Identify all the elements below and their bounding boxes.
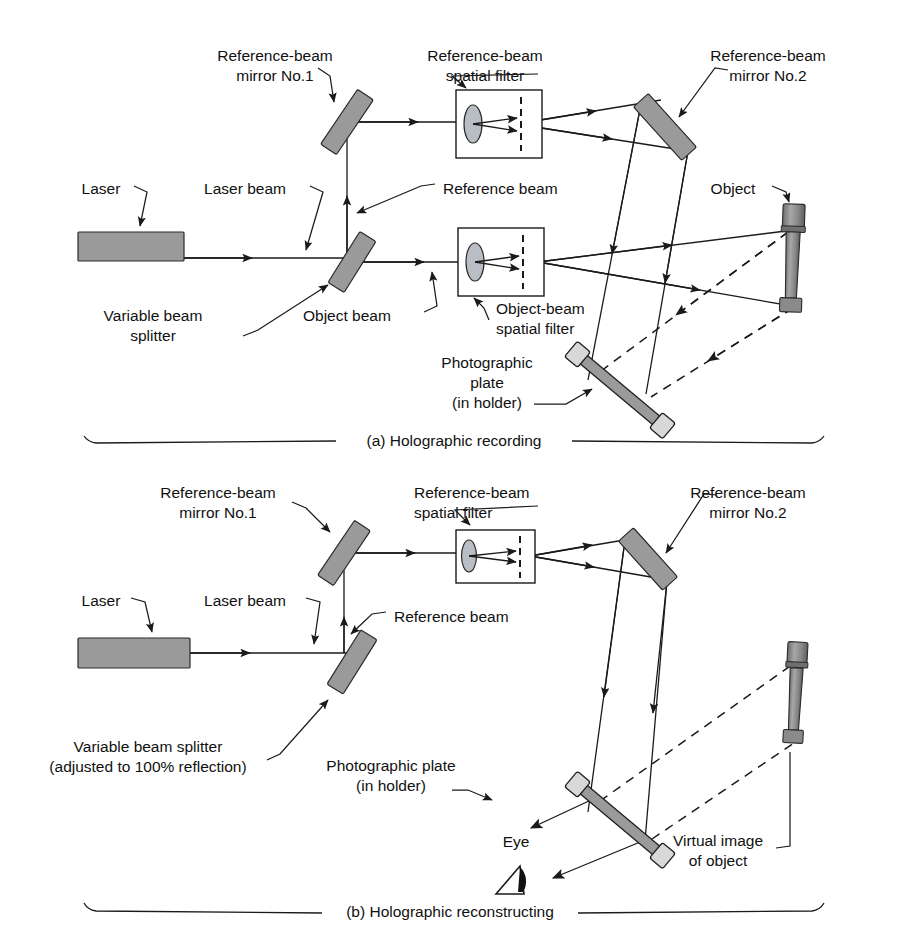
reference-beam-spatial-filter-b <box>456 530 535 583</box>
panel-b-beam-paths <box>190 538 797 878</box>
reference-cone-lower-arrow-b <box>530 556 594 567</box>
label-laser-a: Laser <box>82 180 121 197</box>
label-reference-mirror-1-b-line2: mirror No.1 <box>179 504 257 521</box>
panel-a-holographic-recording: Reference-beam mirror No.1 Reference-bea… <box>78 47 826 449</box>
photographic-plate-b <box>565 771 676 869</box>
reference-to-plate-left-arrow-a <box>612 104 641 254</box>
label-object-filter-a-line1: Object-beam <box>496 300 585 317</box>
reference-to-plate-right-b <box>645 581 667 841</box>
leader-laser-a <box>134 186 147 226</box>
panel-b-holographic-reconstructing: Reference-beam mirror No.1 Reference-bea… <box>49 484 824 920</box>
reference-to-plate-left-arrow-b <box>604 540 625 697</box>
reference-beam-mirror-2-a <box>633 94 696 161</box>
caption-b-right-rule <box>578 903 824 913</box>
leader-reference-beam-b <box>351 612 386 634</box>
caption-b: (b) Holographic reconstructing <box>346 903 554 920</box>
object-cone-upper-arrow-a <box>538 245 672 262</box>
label-reference-mirror-1-a-line2: mirror No.1 <box>236 67 314 84</box>
label-reference-mirror-1-b-line1: Reference-beam <box>160 484 275 501</box>
label-reference-mirror-2-a-line1: Reference-beam <box>710 47 825 64</box>
leader-virtual-image-b <box>776 752 790 848</box>
label-reference-beam-b: Reference beam <box>394 608 509 625</box>
label-reference-filter-a-line1: Reference-beam <box>427 47 542 64</box>
laser-body-b <box>78 638 190 668</box>
leader-laser-beam-b <box>306 598 320 644</box>
leader-object-beam-a <box>424 272 437 312</box>
eye-ray-lower-b <box>553 840 645 878</box>
eye-ray-upper-b <box>531 800 591 828</box>
label-object-filter-a-line2: spatial filter <box>496 320 574 337</box>
label-object-beam-a: Object beam <box>303 307 391 324</box>
reference-cone-upper-arrow-b <box>530 545 592 556</box>
leader-laser-b <box>131 598 152 632</box>
label-variable-beam-splitter-b-line2: (adjusted to 100% reflection) <box>49 758 246 775</box>
leader-object-a <box>772 186 789 202</box>
label-variable-beam-splitter-a-line1: Variable beam <box>104 307 203 324</box>
laser-body-a <box>78 232 184 261</box>
leader-photographic-plate-a <box>534 389 592 404</box>
leader-reference-mirror-2-a <box>679 68 728 117</box>
object-beam-spatial-filter-a <box>458 228 544 296</box>
leader-reference-mirror-1-a <box>318 68 334 102</box>
label-photographic-plate-b-line1: Photographic plate <box>326 757 455 774</box>
diagram-canvas: Reference-beam mirror No.1 Reference-bea… <box>0 0 902 952</box>
leader-variable-beam-splitter-b <box>267 700 328 760</box>
label-reference-filter-b-line1: Reference-beam <box>414 484 529 501</box>
virtual-ray-upper-b <box>600 664 793 801</box>
reference-to-plate-right-arrow-b <box>653 581 667 713</box>
virtual-image-object-b <box>782 642 809 744</box>
label-laser-beam-a: Laser beam <box>204 180 286 197</box>
virtual-ray-lower-b <box>652 741 797 839</box>
caption-b-left-rule <box>84 903 322 913</box>
object-scatter-lower-arrow-a <box>708 308 793 361</box>
label-object-a: Object <box>711 180 756 197</box>
eye-symbol-b <box>496 866 526 894</box>
leader-object-filter-a <box>474 298 489 320</box>
holography-figure: Reference-beam mirror No.1 Reference-bea… <box>0 0 902 952</box>
leader-reference-mirror-2-b <box>666 494 717 553</box>
label-variable-beam-splitter-a-line2: splitter <box>130 327 176 344</box>
leader-laser-beam-a <box>306 186 323 250</box>
label-photographic-plate-a-line2: plate <box>470 374 504 391</box>
photographic-plate-a <box>565 341 676 439</box>
label-virtual-image-b-line2: of object <box>689 852 748 869</box>
leader-photographic-plate-b <box>452 790 492 800</box>
object-cone-lower-arrow-a <box>538 262 700 290</box>
label-reference-mirror-2-b-line2: mirror No.2 <box>709 504 787 521</box>
panel-b-caption-group: (b) Holographic reconstructing <box>84 903 824 920</box>
label-photographic-plate-b-line2: (in holder) <box>356 777 426 794</box>
label-reference-beam-a: Reference beam <box>443 180 558 197</box>
label-laser-b: Laser <box>82 592 121 609</box>
label-laser-beam-b: Laser beam <box>204 592 286 609</box>
caption-a: (a) Holographic recording <box>367 432 542 449</box>
reference-to-plate-right-arrow-a <box>665 151 688 283</box>
label-photographic-plate-a-line3: (in holder) <box>452 394 522 411</box>
reference-beam-mirror-2-b <box>618 528 677 590</box>
variable-beam-splitter-b <box>327 630 377 694</box>
label-reference-filter-b-line2: spatial filter <box>414 504 492 521</box>
panel-a-labels: Reference-beam mirror No.1 Reference-bea… <box>82 47 826 411</box>
leader-reference-beam-a <box>357 184 435 213</box>
leader-reference-mirror-1-b <box>292 502 330 532</box>
reference-beam-spatial-filter-a <box>456 90 542 158</box>
caption-a-left-rule <box>84 436 336 443</box>
label-reference-mirror-2-a-line2: mirror No.2 <box>729 67 807 84</box>
label-virtual-image-b-line1: Virtual image <box>673 832 763 849</box>
object-a <box>778 204 806 313</box>
caption-a-right-rule <box>572 436 824 443</box>
label-reference-mirror-2-b-line1: Reference-beam <box>690 484 805 501</box>
label-photographic-plate-a-line1: Photographic <box>441 354 533 371</box>
label-eye-b: Eye <box>503 833 530 850</box>
panel-a-caption-group: (a) Holographic recording <box>84 432 824 449</box>
label-variable-beam-splitter-b-line1: Variable beam splitter <box>74 738 223 755</box>
label-reference-mirror-1-a-line1: Reference-beam <box>217 47 332 64</box>
